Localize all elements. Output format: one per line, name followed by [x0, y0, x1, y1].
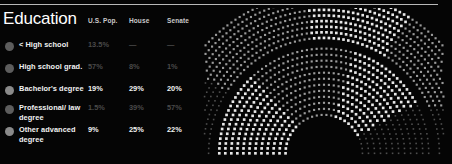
row-value-senate: 1%	[167, 62, 178, 72]
row-label: < High school	[19, 40, 89, 50]
row-bullet-icon	[5, 42, 14, 51]
hemicycle-dot-chart	[196, 8, 452, 164]
outer-band	[204, 8, 445, 154]
row-label: Other advanced degree	[19, 125, 89, 144]
education-table: < High school13.5%——High school grad.57%…	[0, 38, 200, 145]
top-divider-rule	[0, 4, 438, 5]
table-row[interactable]: Other advanced degree9%25%22%	[0, 123, 200, 145]
row-value-us-pop: 57%	[88, 62, 103, 72]
row-value-us-pop: 19%	[88, 84, 103, 94]
row-value-house: 8%	[129, 62, 140, 72]
column-header-senate: Senate	[167, 17, 189, 25]
row-value-us-pop: 9%	[88, 125, 99, 135]
row-bullet-icon	[5, 105, 14, 114]
row-value-senate: —	[167, 40, 174, 50]
row-value-us-pop: 1.5%	[88, 103, 105, 113]
row-label: Bachelor's degree	[19, 84, 89, 94]
row-value-senate: 57%	[167, 103, 182, 113]
row-value-house: 25%	[129, 125, 144, 135]
row-value-house: —	[129, 40, 136, 50]
table-row[interactable]: Professional/ law degree1.5%39%57%	[0, 101, 200, 123]
table-row[interactable]: High school grad.57%8%1%	[0, 60, 200, 82]
hemicycle-svg	[196, 8, 452, 164]
row-value-senate: 22%	[167, 125, 182, 135]
table-row[interactable]: < High school13.5%——	[0, 38, 200, 60]
row-value-senate: 20%	[167, 84, 182, 94]
column-header-house: House	[129, 17, 149, 25]
row-bullet-icon	[5, 64, 14, 73]
row-value-house: 39%	[129, 103, 144, 113]
column-header-us-pop: U.S. Pop.	[88, 17, 117, 25]
row-value-house: 29%	[129, 84, 144, 94]
row-bullet-icon	[5, 127, 14, 136]
education-infographic-panel: Education U.S. Pop. House Senate < High …	[0, 0, 452, 164]
table-row[interactable]: Bachelor's degree19%29%20%	[0, 82, 200, 101]
row-label: High school grad.	[19, 62, 89, 72]
row-value-us-pop: 13.5%	[88, 40, 109, 50]
inner-band	[218, 48, 430, 155]
page-title: Education	[3, 9, 77, 28]
row-bullet-icon	[5, 86, 14, 95]
row-label: Professional/ law degree	[19, 103, 89, 122]
